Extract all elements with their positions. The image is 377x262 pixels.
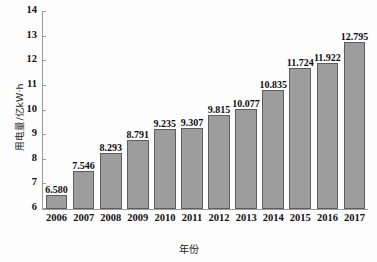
y-tick-label: 9 bbox=[32, 127, 37, 138]
y-axis-title: 用电量/亿kW·h bbox=[12, 57, 26, 177]
y-tick-label: 7 bbox=[32, 176, 37, 187]
x-tick-label: 2016 bbox=[317, 212, 338, 223]
bar[interactable]: 12.795 bbox=[344, 42, 366, 209]
y-tick-label: 6 bbox=[32, 201, 37, 212]
bar-value-label: 6.580 bbox=[45, 184, 68, 195]
plot-area: 67891011121314 6.5807.5468.2938.7919.235… bbox=[42, 12, 368, 210]
x-tick-label: 2007 bbox=[73, 212, 94, 223]
bar-series: 6.5807.5468.2938.7919.2359.3079.81510.07… bbox=[43, 12, 368, 209]
bar-value-label: 9.235 bbox=[154, 118, 177, 129]
bar-value-label: 8.791 bbox=[127, 129, 150, 140]
bar[interactable]: 10.835 bbox=[262, 90, 284, 209]
y-tick-label: 11 bbox=[27, 78, 37, 89]
bar-value-label: 11.922 bbox=[314, 52, 341, 63]
x-tick-label: 2008 bbox=[100, 212, 121, 223]
x-tick-label: 2009 bbox=[127, 212, 148, 223]
x-axis-ticks: 2006200720082009201020112012201320142015… bbox=[42, 212, 368, 228]
bar-value-label: 9.815 bbox=[208, 104, 231, 115]
bar-value-label: 7.546 bbox=[72, 160, 95, 171]
bar[interactable]: 8.791 bbox=[127, 140, 149, 209]
x-axis-title: 年份 bbox=[0, 241, 377, 256]
x-tick-label: 2012 bbox=[209, 212, 230, 223]
bar-value-label: 11.724 bbox=[287, 57, 314, 68]
bar[interactable]: 10.077 bbox=[235, 109, 257, 209]
bar-value-label: 10.077 bbox=[232, 98, 260, 109]
y-tick-label: 12 bbox=[27, 53, 38, 64]
y-tick-label: 10 bbox=[27, 103, 38, 114]
x-tick-label: 2017 bbox=[344, 212, 365, 223]
y-tick-label: 14 bbox=[27, 4, 38, 15]
x-axis-line bbox=[42, 209, 368, 210]
bar[interactable]: 9.815 bbox=[208, 115, 230, 209]
bar-value-label: 8.293 bbox=[99, 142, 122, 153]
bar-value-label: 9.307 bbox=[181, 117, 204, 128]
y-tick-label: 8 bbox=[32, 152, 37, 163]
bar[interactable]: 6.580 bbox=[46, 195, 68, 209]
bar-value-label: 12.795 bbox=[341, 31, 369, 42]
bar[interactable]: 8.293 bbox=[100, 153, 122, 209]
x-tick-label: 2006 bbox=[46, 212, 67, 223]
x-tick-label: 2015 bbox=[290, 212, 311, 223]
bar[interactable]: 11.724 bbox=[289, 68, 311, 209]
bar[interactable]: 7.546 bbox=[73, 171, 95, 209]
bar[interactable]: 9.235 bbox=[154, 129, 176, 209]
x-tick-label: 2010 bbox=[154, 212, 175, 223]
x-tick-label: 2011 bbox=[182, 212, 202, 223]
bar-chart: 用电量/亿kW·h 67891011121314 6.5807.5468.293… bbox=[0, 0, 377, 262]
bar[interactable]: 11.922 bbox=[317, 63, 339, 209]
bar[interactable]: 9.307 bbox=[181, 128, 203, 209]
bar-value-label: 10.835 bbox=[259, 79, 287, 90]
y-tick-label: 13 bbox=[27, 29, 38, 40]
x-tick-label: 2014 bbox=[263, 212, 284, 223]
x-tick-label: 2013 bbox=[236, 212, 257, 223]
